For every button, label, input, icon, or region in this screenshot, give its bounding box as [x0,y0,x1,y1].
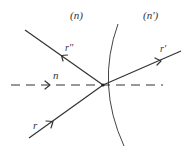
refraction-diagram: (n) (n') n r r'' r' [0,0,191,154]
reflected-ray [25,30,103,85]
normal-label: n [53,69,59,81]
medium-label-n: (n) [70,9,83,22]
incidence-point [101,83,104,86]
incident-ray [29,85,103,138]
refracted-ray-label: r' [160,43,167,54]
incident-ray-label: r [33,119,38,131]
medium-label-n-prime: (n') [143,9,159,22]
refracted-ray [103,51,181,85]
reflected-ray-label: r'' [65,42,74,53]
